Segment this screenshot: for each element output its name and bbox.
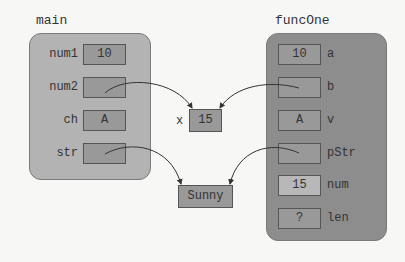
arrow-b-to-x — [220, 84, 299, 108]
arrow-pstr-to-sunny — [230, 148, 299, 184]
arrow-str-to-sunny — [105, 147, 181, 184]
pointer-arrows — [0, 0, 405, 262]
arrow-num2-to-x — [105, 82, 192, 108]
